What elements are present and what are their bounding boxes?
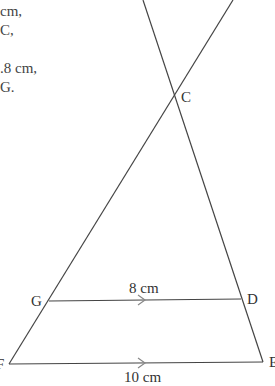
point-label-d: D xyxy=(247,291,258,307)
geometry-diagram: C G D F E 8 cm 10 cm xyxy=(0,0,275,386)
segment-fe xyxy=(9,362,263,364)
point-label-g: G xyxy=(31,293,42,309)
line-through-c-to-f xyxy=(9,0,233,364)
line-through-c-to-e xyxy=(143,0,263,362)
segment-fe-length: 10 cm xyxy=(124,369,161,385)
point-label-f: F xyxy=(0,356,4,372)
segment-gd-length: 8 cm xyxy=(129,280,159,296)
point-label-e: E xyxy=(269,354,275,370)
point-label-c: C xyxy=(181,89,191,105)
